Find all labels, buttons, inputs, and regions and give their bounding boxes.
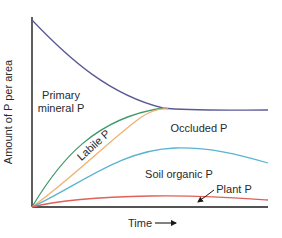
x-axis-label: Time — [128, 217, 152, 229]
phosphorus-chart: Amount of P per area Primary mineral P L… — [0, 0, 282, 238]
label-occluded-p: Occluded P — [171, 122, 228, 134]
label-primary-mineral-p-line1: Primary — [42, 89, 80, 101]
label-plant-p: Plant P — [216, 183, 251, 195]
series-labile-p-lower — [32, 109, 168, 207]
y-axis-label: Amount of P per area — [2, 59, 14, 164]
label-soil-organic-p: Soil organic P — [145, 168, 213, 180]
label-primary-mineral-p-line2: mineral P — [38, 102, 84, 114]
series-plant-p — [32, 196, 268, 207]
